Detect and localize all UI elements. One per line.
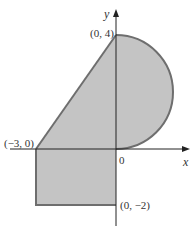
- x-axis-label: x: [182, 155, 189, 169]
- y-axis-arrow-icon: [113, 9, 119, 17]
- y-axis-label: y: [103, 7, 110, 21]
- point-label-top: (0, 4): [90, 27, 114, 40]
- point-label-bottom: (0, −2): [120, 199, 150, 212]
- point-label-left: (−3, 0): [4, 137, 34, 150]
- region-diagram: y x 0 (0, 4) (−3, 0) (0, −2): [0, 0, 195, 229]
- x-axis-arrow-icon: [182, 146, 190, 152]
- origin-label: 0: [119, 154, 125, 166]
